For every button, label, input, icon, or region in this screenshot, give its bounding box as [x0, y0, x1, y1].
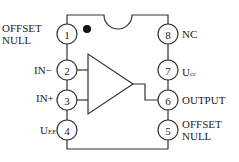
svg-text:UEE: UEE	[40, 124, 57, 136]
pin-3: 3 IN+	[36, 90, 77, 110]
op-amp-triangle-icon	[88, 54, 133, 114]
pin-2: 2 IN−	[34, 60, 77, 80]
svg-text:5: 5	[165, 125, 171, 137]
pin-4: 4 UEE	[40, 120, 77, 140]
pin1-label-line1: OFFSET	[2, 22, 42, 34]
svg-text:1: 1	[64, 29, 70, 41]
pin5-label-line1: OFFSET	[182, 118, 222, 130]
pin-6: 6 OUTPUT	[158, 90, 226, 110]
svg-text:8: 8	[165, 29, 171, 41]
pin-8: 8 NC	[158, 24, 197, 44]
svg-text:Ucc: Ucc	[182, 66, 196, 78]
svg-text:IN−: IN−	[34, 64, 52, 76]
pin1-label-line2: NULL	[2, 34, 32, 46]
pin-1: 1 OFFSET NULL	[2, 22, 77, 46]
svg-text:NC: NC	[182, 28, 197, 40]
svg-text:OUTPUT: OUTPUT	[182, 94, 226, 106]
pin5-label-line2: NULL	[182, 130, 212, 142]
pin-5: 5 OFFSET NULL	[158, 118, 222, 142]
wire-output	[133, 84, 158, 100]
svg-text:IN+: IN+	[36, 92, 54, 104]
svg-text:3: 3	[64, 95, 70, 107]
pin-7: 7 Ucc	[158, 60, 196, 80]
svg-text:7: 7	[165, 65, 171, 77]
ic-pinout-diagram: 1 OFFSET NULL 2 IN− 3 IN+ 4 UEE 8 NC 7 U…	[0, 0, 239, 162]
pin1-marker-dot	[83, 25, 91, 33]
svg-text:6: 6	[165, 95, 171, 107]
svg-text:2: 2	[64, 65, 70, 77]
svg-text:4: 4	[64, 125, 70, 137]
